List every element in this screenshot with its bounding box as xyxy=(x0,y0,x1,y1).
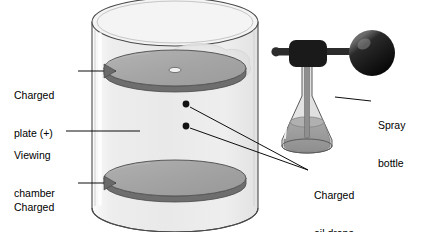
label-spray-bottle-line2: bottle xyxy=(378,157,405,170)
nozzle-tip xyxy=(271,47,280,56)
oil-drop-lower xyxy=(183,123,190,130)
label-charged-oil-drops-line2: oil drops xyxy=(314,227,354,233)
label-charged-plate-positive-line1: Charged xyxy=(14,89,54,102)
rubber-bulb xyxy=(349,30,395,76)
chamber-top-rim xyxy=(92,0,258,46)
charged-plate-positive-shape xyxy=(104,50,246,92)
charged-plate-negative-shape xyxy=(104,160,246,202)
label-spray-bottle-line1: Spray xyxy=(378,119,405,132)
top-plate-hole xyxy=(169,67,181,72)
spray-bottle-shape xyxy=(271,30,395,153)
label-spray-bottle: Spray bottle xyxy=(378,94,405,194)
label-viewing-chamber-line1: Viewing xyxy=(14,149,55,162)
label-charged-plate-negative-line1: Charged xyxy=(14,201,54,214)
millikan-oil-drop-diagram: Charged plate (+) Viewing chamber Charge… xyxy=(0,0,424,232)
sprayer-cap xyxy=(289,40,327,67)
diagram-canvas xyxy=(0,0,424,232)
label-charged-oil-drops-line1: Charged xyxy=(314,189,354,202)
dip-tube xyxy=(305,55,310,138)
label-charged-oil-drops: Charged oil drops xyxy=(314,164,354,232)
label-charged-plate-negative: Charged plate (–) xyxy=(14,176,54,232)
oil-drop-upper xyxy=(183,101,190,108)
leader-spray-bottle xyxy=(335,97,371,101)
bottom-plate-face xyxy=(104,160,246,196)
